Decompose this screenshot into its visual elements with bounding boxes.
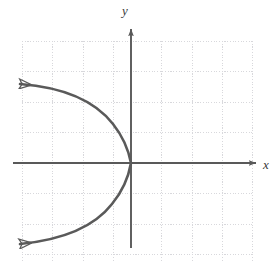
grid-lines (22, 41, 252, 262)
parabola-lower-branch (20, 163, 131, 244)
x-axis-label: x (263, 158, 269, 171)
parabola-upper-branch (20, 84, 131, 163)
parabola-curve (20, 84, 131, 244)
coordinate-plane-svg (0, 0, 270, 272)
y-axis-label: y (122, 4, 128, 17)
graph-figure: y x (0, 0, 270, 272)
